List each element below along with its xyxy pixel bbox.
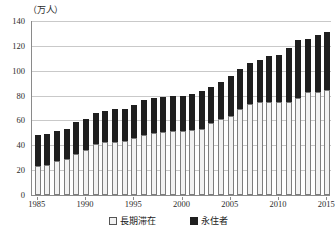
bar bbox=[141, 100, 147, 195]
bar bbox=[295, 40, 301, 195]
bar bbox=[112, 109, 118, 195]
bar-segment-long-term-stay bbox=[228, 116, 234, 195]
bar bbox=[286, 48, 292, 195]
bar-segment-long-term-stay bbox=[64, 159, 70, 195]
y-axis-tick-label: 140 bbox=[12, 16, 25, 26]
bar-segment-permanent-resident bbox=[189, 94, 195, 130]
bar-segment-long-term-stay bbox=[44, 165, 50, 195]
bar bbox=[199, 91, 205, 195]
bar-segment-long-term-stay bbox=[112, 142, 118, 195]
bar-segment-permanent-resident bbox=[324, 32, 330, 90]
bar-segment-long-term-stay bbox=[54, 161, 60, 195]
bar bbox=[54, 131, 60, 195]
bar-segment-permanent-resident bbox=[131, 105, 137, 139]
bar-segment-long-term-stay bbox=[73, 154, 79, 195]
bar bbox=[122, 109, 128, 195]
bar-segment-permanent-resident bbox=[102, 111, 108, 143]
bar bbox=[189, 94, 195, 195]
light-square-icon bbox=[109, 217, 117, 225]
x-axis-tick-label: 2000 bbox=[173, 199, 190, 209]
bar-segment-permanent-resident bbox=[315, 35, 321, 92]
bar-segment-long-term-stay bbox=[315, 92, 321, 195]
bar bbox=[180, 96, 186, 195]
plot-area bbox=[31, 21, 330, 196]
bar-segment-permanent-resident bbox=[73, 122, 79, 154]
bar bbox=[73, 122, 79, 195]
bar bbox=[266, 56, 272, 195]
y-axis-tick-label: 40 bbox=[17, 140, 26, 150]
bar bbox=[131, 105, 137, 195]
stacked-bar-chart: （万人） 020406080100120140 1985199019952000… bbox=[0, 0, 336, 236]
bar bbox=[64, 129, 70, 195]
bar-segment-permanent-resident bbox=[93, 113, 99, 144]
bar-segment-permanent-resident bbox=[237, 69, 243, 108]
bar-segment-permanent-resident bbox=[266, 56, 272, 102]
bar-segment-permanent-resident bbox=[218, 82, 224, 119]
x-axis-tick-labels: 1985199019952000200520102015 bbox=[31, 197, 330, 211]
bar bbox=[44, 134, 50, 195]
bar-segment-long-term-stay bbox=[199, 129, 205, 195]
bar-segment-long-term-stay bbox=[141, 135, 147, 195]
y-axis-tick-label: 80 bbox=[17, 91, 26, 101]
x-axis-tick-label: 1985 bbox=[28, 199, 45, 209]
bar-segment-long-term-stay bbox=[324, 90, 330, 195]
bar-segment-long-term-stay bbox=[35, 166, 41, 195]
bar bbox=[151, 98, 157, 195]
bar-segment-permanent-resident bbox=[35, 135, 41, 166]
x-axis-tick-label: 2015 bbox=[318, 199, 335, 209]
y-axis-tick-labels: 020406080100120140 bbox=[0, 21, 28, 196]
bar bbox=[93, 113, 99, 195]
bar bbox=[170, 96, 176, 195]
bar-segment-long-term-stay bbox=[131, 138, 137, 195]
bar-segment-long-term-stay bbox=[218, 119, 224, 195]
bar bbox=[276, 55, 282, 195]
bar-segment-permanent-resident bbox=[122, 109, 128, 141]
bar-segment-long-term-stay bbox=[266, 102, 272, 195]
bar-segment-permanent-resident bbox=[44, 134, 50, 165]
bar-segment-permanent-resident bbox=[64, 129, 70, 159]
bar-segment-permanent-resident bbox=[170, 96, 176, 131]
y-axis-tick-label: 0 bbox=[21, 190, 25, 200]
bar-segment-long-term-stay bbox=[170, 131, 176, 195]
bar-segment-permanent-resident bbox=[295, 40, 301, 98]
bar bbox=[35, 135, 41, 195]
legend-label-long-term-stay: 長期滞在 bbox=[120, 214, 156, 227]
bar-segment-permanent-resident bbox=[180, 96, 186, 131]
bar-segment-long-term-stay bbox=[286, 102, 292, 195]
bar bbox=[218, 82, 224, 195]
bar bbox=[83, 119, 89, 195]
bar-segment-permanent-resident bbox=[83, 119, 89, 151]
bar-segment-long-term-stay bbox=[295, 98, 301, 195]
bar-segment-long-term-stay bbox=[257, 102, 263, 195]
bar-segment-permanent-resident bbox=[228, 76, 234, 116]
bar bbox=[102, 111, 108, 196]
bar bbox=[315, 35, 321, 195]
legend-label-permanent-resident: 永住者 bbox=[201, 214, 228, 227]
bar-segment-permanent-resident bbox=[208, 87, 214, 123]
dark-square-icon bbox=[190, 217, 198, 225]
bar-segment-long-term-stay bbox=[151, 133, 157, 195]
y-axis-tick-label: 20 bbox=[17, 165, 26, 175]
bar-segment-permanent-resident bbox=[151, 98, 157, 133]
bar-segment-permanent-resident bbox=[160, 97, 166, 132]
x-axis-tick-label: 2005 bbox=[221, 199, 238, 209]
bar bbox=[228, 76, 234, 195]
bar bbox=[324, 32, 330, 195]
bar-segment-permanent-resident bbox=[199, 91, 205, 128]
bar bbox=[257, 60, 263, 195]
bar-segment-permanent-resident bbox=[305, 39, 311, 92]
bar-segment-long-term-stay bbox=[247, 104, 253, 195]
bar-segment-long-term-stay bbox=[208, 123, 214, 195]
x-axis-tick-label: 1995 bbox=[125, 199, 142, 209]
bar-segment-permanent-resident bbox=[257, 60, 263, 102]
bar-segment-permanent-resident bbox=[54, 131, 60, 161]
chart-legend: 長期滞在 永住者 bbox=[0, 214, 336, 227]
y-axis-tick-label: 120 bbox=[12, 41, 25, 51]
bar-segment-permanent-resident bbox=[247, 63, 253, 103]
bar-segment-long-term-stay bbox=[189, 130, 195, 195]
bar-segment-long-term-stay bbox=[160, 132, 166, 195]
bar-segment-long-term-stay bbox=[102, 142, 108, 195]
bar bbox=[208, 87, 214, 195]
bar-segment-long-term-stay bbox=[237, 109, 243, 195]
bar-segment-long-term-stay bbox=[305, 92, 311, 195]
